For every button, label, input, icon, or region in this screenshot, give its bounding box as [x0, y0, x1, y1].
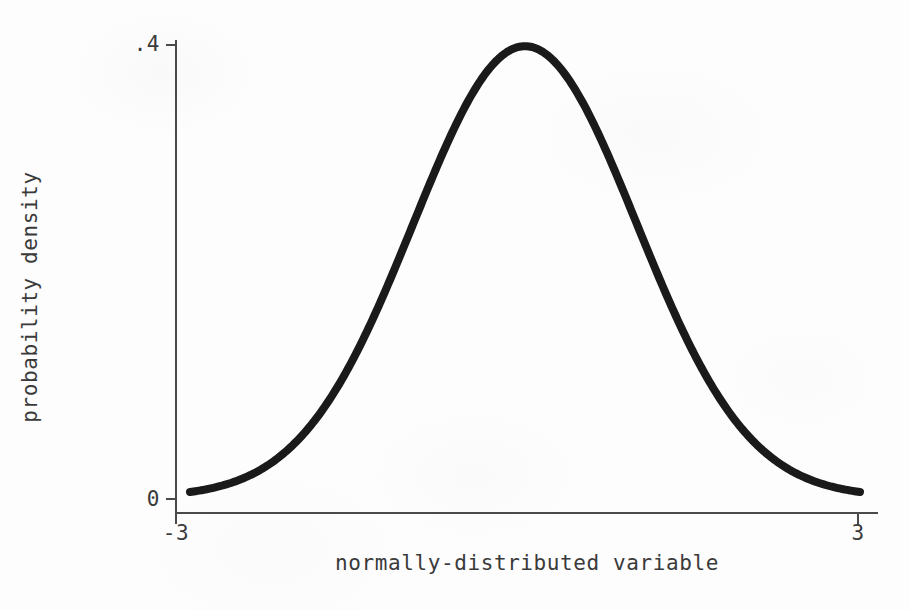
density-curve: [190, 46, 860, 492]
y-axis-tick-label-max: .4: [96, 32, 160, 56]
x-axis-title: normally-distributed variable: [176, 551, 878, 575]
normal-distribution-plot: [0, 0, 910, 610]
x-axis-tick-label-max: 3: [828, 521, 888, 545]
y-axis-tick-label-min: 0: [96, 487, 160, 511]
chart-page: .4 0 -3 3 normally-distributed variable …: [0, 0, 910, 610]
x-axis-tick-label-min: -3: [146, 521, 206, 545]
y-axis-title: probability density: [18, 147, 42, 447]
